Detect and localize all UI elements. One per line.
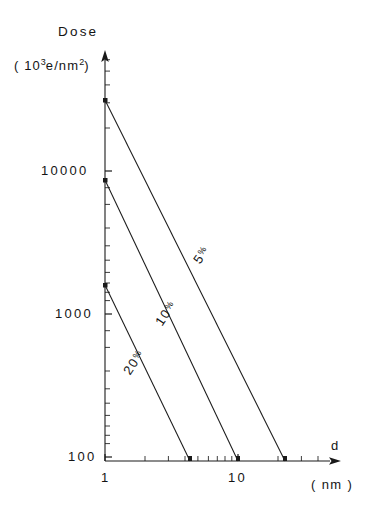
endpoint-marker-10-percent (236, 456, 240, 461)
y-tick-label-100: 100 (68, 449, 97, 464)
y-axis-title: Dose (58, 24, 98, 39)
y-axis (101, 50, 109, 461)
series-line-20-percent (105, 285, 190, 461)
endpoint-marker-5-percent (283, 456, 287, 461)
x-axis-title: d (331, 438, 340, 453)
x-axis-units: ( nm ) (311, 477, 353, 492)
y-minor-ticks (105, 60, 110, 444)
y-tick-label-10000: 10000 (41, 163, 89, 178)
x-axis-arrowhead (329, 457, 341, 465)
x-tick-label-1: 1 (101, 470, 110, 485)
y-major-ticks (105, 171, 112, 457)
series-line-10-percent (105, 180, 238, 461)
y-axis-units: ( 103e/nm2) (14, 57, 90, 73)
y-units-open: ( 10 (14, 58, 41, 73)
series-line-5-percent (105, 100, 285, 461)
x-major-ticks (105, 454, 238, 461)
endpoint-marker-20-percent (188, 456, 192, 461)
y-units-tail: e/nm (46, 58, 79, 73)
series-endpoint-markers (188, 456, 287, 461)
y-units-close: ) (84, 58, 89, 73)
x-minor-ticks (145, 456, 318, 461)
origin-marker-10-percent (103, 178, 108, 183)
dose-vs-thickness-chart: Dose ( 103e/nm2) 10000 1000 100 1 10 d (… (0, 0, 366, 510)
origin-marker-5-percent (103, 98, 108, 103)
chart-canvas (0, 0, 366, 510)
data-series-group (105, 100, 285, 461)
x-axis (105, 457, 341, 465)
y-tick-label-1000: 1000 (55, 306, 93, 321)
x-tick-label-10: 10 (228, 470, 247, 485)
origin-marker-20-percent (103, 283, 108, 288)
